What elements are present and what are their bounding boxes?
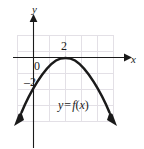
y-intercept-label: –2: [24, 76, 36, 88]
curve-label-close-paren: ): [85, 98, 89, 112]
y-axis-label: y: [32, 4, 37, 15]
curve-label: y = f(x): [58, 99, 89, 111]
vertex-value-label: 2: [61, 40, 67, 52]
graph-canvas: [0, 0, 144, 149]
x-axis-label: x: [131, 54, 136, 65]
parabola-graph-figure: y x 2 0 –2 y = f(x): [0, 0, 144, 149]
origin-label: 0: [34, 60, 40, 72]
curve-arrowhead-right: [107, 113, 117, 127]
curve-arrowhead-left: [14, 113, 24, 127]
